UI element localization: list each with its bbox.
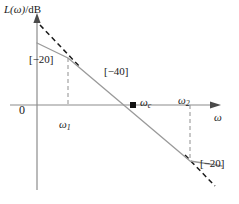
y-axis-label: L(ω)/dB [4, 4, 41, 15]
omega-c-symbol: ω [140, 96, 148, 108]
omega2-subscript: 2 [186, 99, 190, 108]
y-axis [33, 13, 40, 190]
origin-label: 0 [19, 104, 25, 116]
x-axis-label: ω [214, 112, 222, 123]
omega2-label: ω2 [178, 95, 190, 108]
y-axis-label-unit: /dB [25, 3, 41, 15]
bode-plot-figure: L(ω)/dB ω 0 [−20] [−40] [−20] ω1 ωc ω2 [0, 0, 239, 204]
crossover-marker-dot [130, 102, 136, 108]
slope-label-high: [−20] [200, 158, 225, 169]
plot-canvas [0, 0, 239, 204]
omega2-symbol: ω [178, 94, 186, 106]
omega1-symbol: ω [59, 118, 67, 130]
slope-label-mid: [−40] [104, 66, 129, 77]
omega-c-subscript: c [148, 101, 152, 110]
y-axis-label-variable: L(ω) [4, 3, 25, 15]
omega-c-label: ωc [140, 97, 151, 110]
omega1-label: ω1 [59, 119, 71, 132]
omega1-subscript: 1 [67, 123, 71, 132]
slope-label-low: [−20] [29, 54, 54, 65]
